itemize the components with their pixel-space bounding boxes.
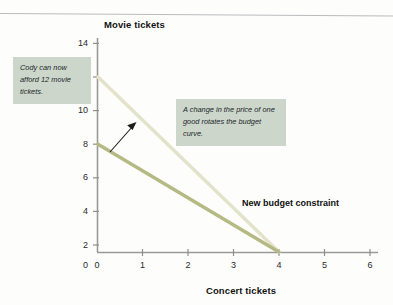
new-budget-constraint-label: New budget constraint — [242, 198, 339, 208]
y-tick-label-14: 14 — [72, 38, 88, 48]
x-tick-label-5: 5 — [318, 260, 332, 270]
x-axis-title: Concert tickets — [206, 285, 276, 296]
y-tick-label-10: 10 — [72, 105, 88, 115]
y-axis-title: Movie tickets — [104, 19, 165, 30]
rotation-callout: A change in the price of one good rotate… — [176, 99, 286, 146]
y-tick-label-6: 6 — [72, 172, 88, 182]
x-tick-label-4: 4 — [272, 260, 286, 270]
rotation-arrow-icon — [110, 122, 137, 152]
x-tick-label-6: 6 — [363, 260, 377, 270]
x-tick-label-2: 2 — [181, 260, 195, 270]
x-tick-label-3: 3 — [227, 260, 241, 270]
y-tick-label-8: 8 — [72, 139, 88, 149]
x-tick-label-1: 1 — [136, 260, 150, 270]
budget-constraint-chart: Movie tickets Concert tickets 14 12 10 8… — [0, 0, 393, 305]
cody-callout: Cody can now afford 12 movie tickets. — [13, 57, 91, 104]
plot-canvas — [0, 0, 393, 305]
y-tick-label-4: 4 — [72, 206, 88, 216]
y-tick-label-0: 0 — [72, 260, 88, 270]
y-tick-label-2: 2 — [72, 240, 88, 250]
x-tick-label-0: 0 — [90, 260, 104, 270]
